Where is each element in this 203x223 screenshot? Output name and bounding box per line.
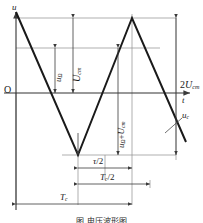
label-tc-half: Tc/2 xyxy=(100,172,115,182)
label-sum-operator: + xyxy=(116,134,126,139)
label-sum-second: U xyxy=(116,128,126,135)
origin-label: O xyxy=(4,84,11,95)
label-tc: Tc xyxy=(60,192,68,202)
waveform-uc xyxy=(16,12,186,155)
label-ucm-base: U xyxy=(71,75,82,82)
label-two-ucm-sub: cm xyxy=(192,83,199,90)
figure-caption: 图 电压波形图 xyxy=(0,215,203,223)
label-tau-half: τ/2 xyxy=(93,156,103,166)
label-ucm-sub: cm xyxy=(75,68,82,75)
diagram-canvas xyxy=(0,0,203,223)
label-sum-first: u xyxy=(116,144,126,149)
label-sum-first-sub: Ω xyxy=(120,139,126,143)
x-axis-label: t xyxy=(182,95,185,105)
waveform-figure: u t O uc uΩ Ucm uΩ+Ucm 2Ucm τ/2 Tc/2 Tc … xyxy=(0,0,203,223)
waveform-label-uc: uc xyxy=(182,110,189,120)
label-u-omega: uΩ xyxy=(53,73,63,82)
axes xyxy=(4,12,190,210)
label-u-omega-base: u xyxy=(53,78,63,83)
label-tc-half-suffix: /2 xyxy=(108,172,115,182)
label-sum-second-sub: cm xyxy=(120,121,126,128)
label-u-omega-sub: Ω xyxy=(57,73,63,77)
y-axis-label: u xyxy=(12,2,17,12)
label-tau-half-suffix: /2 xyxy=(96,156,103,166)
label-tc-sub: c xyxy=(65,196,67,202)
guide-lines xyxy=(16,18,176,155)
label-two-ucm: 2Ucm xyxy=(180,79,199,90)
label-u-omega-plus-ucm: uΩ+Ucm xyxy=(116,121,126,148)
waveform-label-sub: c xyxy=(187,114,189,120)
label-ucm: Ucm xyxy=(71,68,82,82)
